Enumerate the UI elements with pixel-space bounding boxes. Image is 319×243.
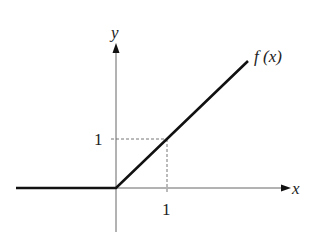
function-curve xyxy=(16,61,248,188)
x-axis-label: x xyxy=(291,179,300,198)
x-tick-label-1: 1 xyxy=(162,200,171,219)
x-axis-arrow-icon xyxy=(281,185,291,192)
relu-plot: y x f (x) 1 1 xyxy=(0,0,319,243)
function-label: f (x) xyxy=(254,47,282,66)
y-axis-label: y xyxy=(109,23,119,42)
y-tick-label-1: 1 xyxy=(94,130,103,149)
y-axis-arrow-icon xyxy=(113,43,120,53)
